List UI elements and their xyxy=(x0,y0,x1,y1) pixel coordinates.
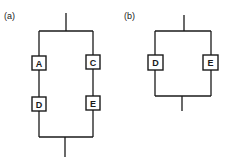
diagram-canvas: (a) A D C E (b) xyxy=(0,0,230,165)
component-label-e: E xyxy=(207,58,213,68)
component-label-d: D xyxy=(36,100,43,110)
component-box-d: D xyxy=(32,97,46,111)
component-label-c: C xyxy=(90,58,97,68)
panel-a: (a) A D C E xyxy=(4,11,100,157)
component-box-a: A xyxy=(32,56,46,70)
component-label-a: A xyxy=(36,59,43,69)
component-label-e: E xyxy=(90,99,96,109)
component-box-c: C xyxy=(86,55,100,69)
panel-b-label: (b) xyxy=(124,11,135,21)
component-label-d: D xyxy=(152,58,159,68)
panel-b: (b) D E xyxy=(124,11,218,111)
component-box-d: D xyxy=(148,55,163,70)
component-box-e: E xyxy=(86,96,100,110)
panel-a-label: (a) xyxy=(4,11,15,21)
component-box-e: E xyxy=(203,55,218,70)
